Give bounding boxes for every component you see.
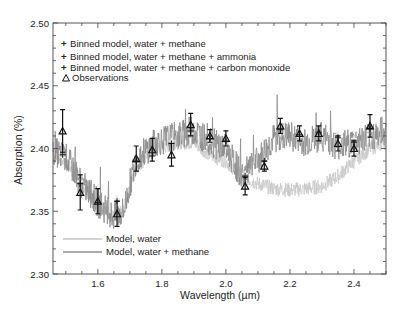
x-tick-label: 1.6 — [91, 278, 104, 289]
absorption-spectrum-chart: 1.61.82.02.22.42.302.352.402.452.50 Wave… — [0, 0, 404, 315]
legend-label-model-water: Model, water — [106, 233, 162, 244]
x-tick-label: 2.0 — [219, 278, 232, 289]
x-tick-label: 1.8 — [155, 278, 168, 289]
x-tick-label: 2.2 — [283, 278, 296, 289]
y-tick-label: 2.30 — [30, 269, 49, 280]
legend-top: + Binned model, water + methane + Binned… — [61, 38, 290, 83]
triangle-icon — [63, 75, 70, 82]
legend-marker-binned-carbon-monoxide: + — [61, 62, 67, 73]
legend-label-observations: Observations — [72, 72, 129, 83]
y-tick-label: 2.40 — [30, 143, 49, 154]
legend-label-binned-water-methane: Binned model, water + methane — [70, 38, 206, 49]
legend-label-binned-ammonia: Binned model, water + methane + ammonia — [70, 51, 257, 62]
legend-marker-binned-water-methane: + — [61, 38, 67, 49]
y-tick-label: 2.45 — [30, 80, 49, 91]
y-axis-label: Absorption (%) — [12, 115, 24, 184]
x-tick-label: 2.4 — [347, 278, 361, 289]
model-spectra-lines — [53, 95, 386, 229]
y-tick-label: 2.35 — [30, 206, 49, 217]
legend-label-model-water-methane: Model, water + methane — [106, 246, 209, 257]
x-axis-label: Wavelength (µm) — [180, 289, 260, 301]
legend-bottom: Model, water Model, water + methane — [63, 233, 209, 257]
legend-marker-binned-ammonia: + — [61, 51, 67, 62]
y-tick-label: 2.50 — [30, 18, 49, 29]
